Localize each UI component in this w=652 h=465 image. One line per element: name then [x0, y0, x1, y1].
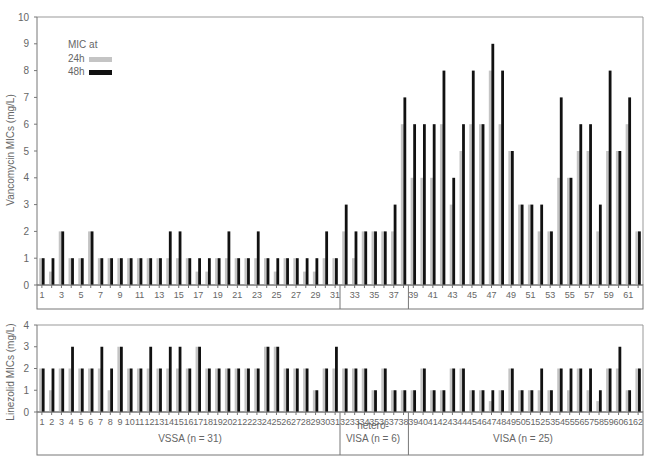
x-tick-label: 20: [223, 417, 233, 427]
bar-48h: [188, 369, 191, 413]
bar-48h: [540, 205, 543, 285]
bar-48h: [315, 258, 318, 285]
bar-48h: [208, 369, 211, 413]
x-tick-label: 13: [154, 417, 164, 427]
group-label-hetero-1: hetero-: [357, 420, 389, 431]
x-tick-label: 58: [594, 417, 604, 427]
bar-48h: [364, 369, 367, 413]
y-tick-label: 8: [23, 65, 29, 76]
y-tick-label: 2: [23, 363, 29, 374]
bar-48h: [286, 258, 289, 285]
bar-48h: [237, 369, 240, 413]
x-tick-label: 10: [125, 417, 135, 427]
x-tick-label: 49: [506, 290, 516, 300]
bar-48h: [81, 369, 84, 413]
x-tick-label: 31: [330, 290, 340, 300]
bar-48h: [61, 231, 64, 285]
bar-48h: [511, 151, 514, 285]
x-tick-label: 57: [584, 290, 594, 300]
x-tick-label: 49: [506, 417, 516, 427]
bar-48h: [345, 369, 348, 413]
bar-48h: [159, 258, 162, 285]
x-tick-label: 17: [193, 290, 203, 300]
bar-48h: [71, 347, 74, 412]
bar-48h: [257, 231, 260, 285]
bar-48h: [345, 205, 348, 285]
y-tick-label: 7: [23, 92, 29, 103]
bar-48h: [482, 390, 485, 412]
y-tick-label: 4: [23, 320, 29, 331]
x-tick-label: 5: [78, 417, 83, 427]
bar-48h: [149, 347, 152, 412]
bar-48h: [149, 258, 152, 285]
legend-label-48h: 48h: [68, 66, 85, 77]
x-tick-label: 17: [193, 417, 203, 427]
x-tick-label: 1: [39, 290, 44, 300]
y-tick-label: 3: [23, 341, 29, 352]
bar-48h: [42, 369, 45, 413]
bar-48h: [394, 390, 397, 412]
bar-48h: [237, 258, 240, 285]
legend-swatch-48h: [89, 70, 112, 75]
x-tick-label: 29: [311, 417, 321, 427]
bar-48h: [531, 205, 534, 285]
x-tick-label: 24: [262, 417, 272, 427]
bar-48h: [403, 97, 406, 285]
bar-48h: [81, 258, 84, 285]
y-tick-label: 6: [23, 119, 29, 130]
bar-48h: [100, 347, 103, 412]
x-tick-label: 2: [49, 417, 54, 427]
y-tick-label: 0: [23, 407, 29, 418]
x-tick-label: 31: [330, 417, 340, 427]
bar-48h: [296, 258, 299, 285]
x-tick-label: 9: [118, 417, 123, 427]
bar-48h: [130, 258, 133, 285]
bar-48h: [599, 205, 602, 285]
bar-48h: [247, 369, 250, 413]
x-tick-label: 47: [486, 417, 496, 427]
bar-48h: [570, 369, 573, 413]
y-tick-label: 1: [23, 253, 29, 264]
bar-48h: [433, 124, 436, 285]
bar-48h: [638, 369, 641, 413]
x-tick-label: 57: [584, 417, 594, 427]
legend-swatch-24h: [89, 57, 112, 62]
bar-48h: [521, 205, 524, 285]
x-tick-label: 39: [408, 290, 418, 300]
x-tick-label: 44: [457, 417, 467, 427]
y-tick-label: 1: [23, 385, 29, 396]
x-tick-label: 55: [565, 290, 575, 300]
bar-48h: [120, 347, 123, 412]
x-tick-label: 51: [526, 290, 536, 300]
bar-48h: [413, 124, 416, 285]
bar-48h: [120, 258, 123, 285]
bar-48h: [472, 390, 475, 412]
bar-48h: [188, 258, 191, 285]
x-tick-label: 47: [486, 290, 496, 300]
bar-48h: [42, 258, 45, 285]
y-tick-label: 5: [23, 146, 29, 157]
bar-48h: [609, 369, 612, 413]
bar-48h: [482, 124, 485, 285]
group-label-visa: VISA (n = 25): [493, 433, 553, 444]
vancomycin-chart: 0123456789101357911131517192123252729313…: [18, 12, 643, 310]
mic-chart: 0123456789101357911131517192123252729313…: [0, 0, 652, 465]
bar-48h: [462, 369, 465, 413]
bar-48h: [208, 258, 211, 285]
bar-48h: [443, 390, 446, 412]
bar-48h: [179, 231, 182, 285]
bar-48h: [433, 390, 436, 412]
bar-48h: [403, 390, 406, 412]
x-tick-label: 45: [467, 290, 477, 300]
x-tick-label: 16: [183, 417, 193, 427]
bar-48h: [531, 390, 534, 412]
bar-48h: [384, 369, 387, 413]
x-tick-label: 59: [604, 417, 614, 427]
x-tick-label: 12: [144, 417, 154, 427]
bar-48h: [443, 71, 446, 285]
x-tick-label: 43: [447, 290, 457, 300]
x-tick-label: 22: [242, 417, 252, 427]
bar-48h: [306, 258, 309, 285]
x-tick-label: 30: [320, 417, 330, 427]
bar-48h: [628, 97, 631, 285]
